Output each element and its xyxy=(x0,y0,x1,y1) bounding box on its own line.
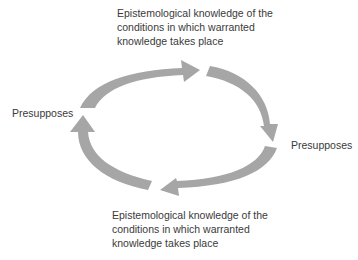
top-arc-arrow xyxy=(80,60,200,108)
left-label: Presupposes xyxy=(12,106,73,120)
top-caption-line-1: Epistemological knowledge of the xyxy=(117,6,273,20)
top-caption-line-2: conditions in which warranted xyxy=(117,20,273,34)
right-label: Presupposes xyxy=(291,138,352,152)
bottom-caption-line-1: Epistemological knowledge of the xyxy=(112,208,268,222)
bottom-arc-arrow xyxy=(160,146,277,196)
top-caption: Epistemological knowledge of the conditi… xyxy=(117,6,273,48)
right-arc-arrow xyxy=(206,66,278,142)
left-arc-arrow xyxy=(70,115,152,190)
top-caption-line-3: knowledge takes place xyxy=(117,34,273,48)
bottom-caption-line-2: conditions in which warranted xyxy=(112,222,268,236)
bottom-caption: Epistemological knowledge of the conditi… xyxy=(112,208,268,250)
bottom-caption-line-3: knowledge takes place xyxy=(112,236,268,250)
